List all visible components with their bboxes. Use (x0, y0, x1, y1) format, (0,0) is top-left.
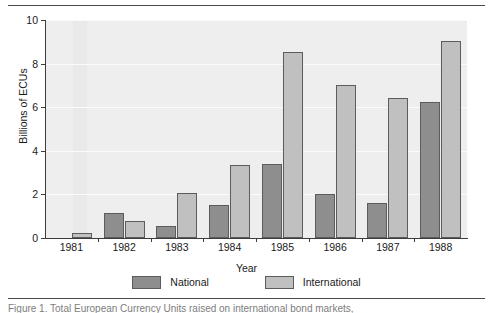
bar-national-1982 (104, 213, 124, 238)
x-tick-mark (309, 238, 310, 242)
bar-national-1986 (315, 194, 335, 238)
y-tick-mark (41, 20, 45, 21)
bar-international-1985 (283, 52, 303, 238)
figure: 0246810 19811982198319841985198619871988… (0, 0, 493, 313)
x-tick-mark (98, 238, 99, 242)
y-tick-mark (41, 194, 45, 195)
x-tick-mark (362, 238, 363, 242)
bar-international-1984 (230, 165, 250, 238)
y-tick-mark (41, 238, 45, 239)
legend-label-national: National (170, 277, 209, 288)
x-tick-label-1982: 1982 (94, 242, 154, 253)
legend-swatch-international (265, 276, 294, 289)
gridline (45, 20, 467, 21)
bar-national-1983 (156, 226, 176, 238)
x-tick-label-1988: 1988 (411, 242, 471, 253)
x-tick-label-1984: 1984 (200, 242, 260, 253)
legend-label-international: International (303, 277, 361, 288)
bar-international-1982 (125, 221, 145, 238)
legend-entry-national: National (132, 276, 209, 289)
bar-international-1987 (388, 98, 408, 238)
bar-international-1983 (177, 193, 197, 238)
x-tick-label-1985: 1985 (252, 242, 312, 253)
legend-swatch-national (132, 276, 161, 289)
x-tick-mark (151, 238, 152, 242)
y-tick-mark (41, 151, 45, 152)
x-tick-mark (256, 238, 257, 242)
y-tick-mark (41, 64, 45, 65)
x-tick-label-1986: 1986 (305, 242, 365, 253)
y-axis-title: Billions of ECUs (17, 36, 29, 176)
y-tick-label: 2 (8, 189, 38, 200)
figure-caption: Figure 1. Total European Currency Units … (8, 303, 485, 313)
y-tick-label: 0 (8, 233, 38, 244)
x-axis-title: Year (0, 262, 493, 274)
gridline (45, 64, 467, 65)
y-axis-line (45, 20, 46, 239)
top-rule (8, 5, 485, 6)
bottom-rule (8, 298, 485, 299)
scan-band (73, 20, 87, 238)
x-tick-label-1983: 1983 (147, 242, 207, 253)
y-tick-mark (41, 107, 45, 108)
bar-national-1988 (420, 102, 440, 238)
plot-area (45, 20, 467, 238)
bar-international-1986 (336, 85, 356, 238)
x-tick-mark (203, 238, 204, 242)
bar-national-1987 (367, 203, 387, 238)
legend-entry-international: International (265, 276, 361, 289)
bar-national-1984 (209, 205, 229, 238)
x-tick-mark (414, 238, 415, 242)
x-tick-label-1981: 1981 (41, 242, 101, 253)
legend: National International (0, 276, 493, 289)
x-tick-label-1987: 1987 (358, 242, 418, 253)
y-tick-label: 10 (8, 15, 38, 26)
bar-international-1988 (441, 41, 461, 238)
bar-national-1985 (262, 164, 282, 238)
